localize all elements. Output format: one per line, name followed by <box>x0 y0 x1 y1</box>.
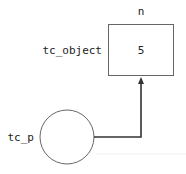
pointer-diagram: n tc_object 5 tc_p <box>0 0 186 174</box>
object-value: 5 <box>138 44 145 57</box>
pointer-arrow-line <box>94 82 141 137</box>
pointer-var-label: tc_p <box>8 131 35 144</box>
pointer-circle <box>40 110 94 164</box>
object-var-label: tc_object <box>42 44 102 57</box>
arrowhead-icon <box>138 77 144 84</box>
object-name-label: n <box>138 5 145 18</box>
